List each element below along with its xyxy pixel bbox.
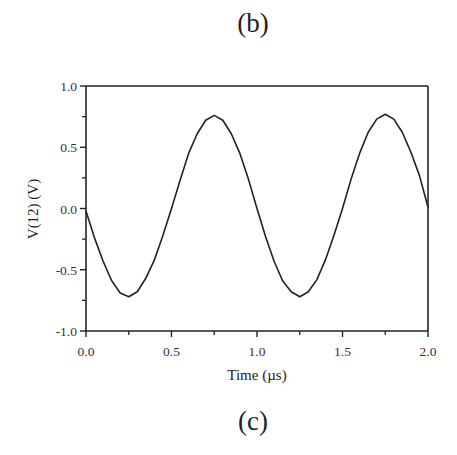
- y-tick-label: 0.0: [60, 202, 77, 217]
- x-axis-title: Time (µs): [227, 367, 286, 384]
- y-tick-label: 0.5: [60, 140, 77, 155]
- x-tick-label: 2.0: [420, 344, 437, 359]
- x-tick-label: 1.5: [334, 344, 351, 359]
- y-axis-title: V(12) (V): [25, 179, 42, 239]
- x-tick-label: 1.0: [249, 344, 266, 359]
- axis-ticks: [80, 86, 428, 337]
- x-tick-label: 0.0: [78, 344, 95, 359]
- panel-label-c: (c): [0, 406, 457, 437]
- y-tick-label: 1.0: [60, 79, 77, 94]
- y-tick-label: -1.0: [56, 324, 78, 339]
- line-chart: -1.0-0.50.00.51.00.00.51.01.52.0 Time (µ…: [0, 0, 457, 455]
- x-tick-label: 0.5: [163, 344, 180, 359]
- y-tick-label: -0.5: [56, 263, 78, 278]
- axis-tick-labels: -1.0-0.50.00.51.00.00.51.01.52.0: [56, 79, 437, 359]
- voltage-series-line: [86, 114, 428, 297]
